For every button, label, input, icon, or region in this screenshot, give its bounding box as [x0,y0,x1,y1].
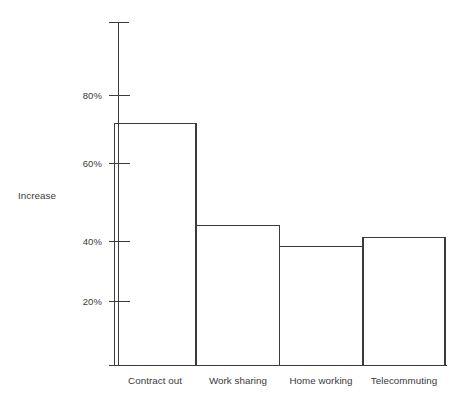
chart-canvas [0,0,470,409]
x-label-home-working: Home working [276,376,366,386]
x-label-contract-out: Contract out [110,376,200,386]
bar-chart: Increase 80% 60% 40% 20% Contract out Wo… [0,0,470,409]
y-axis-title: Increase [18,191,56,201]
y-tick-label-40: 40% [59,237,102,247]
x-label-work-sharing: Work sharing [193,376,283,386]
x-label-telecommuting: Telecommuting [359,376,449,386]
bar-work-sharing [196,226,280,366]
bar-telecommuting [363,238,445,366]
y-tick-label-20: 20% [59,297,102,307]
bar-series [115,124,446,366]
bar-home-working [280,246,364,365]
bar-contract-out [115,124,197,366]
y-tick-label-80: 80% [59,91,102,101]
y-tick-label-60: 60% [59,159,102,169]
